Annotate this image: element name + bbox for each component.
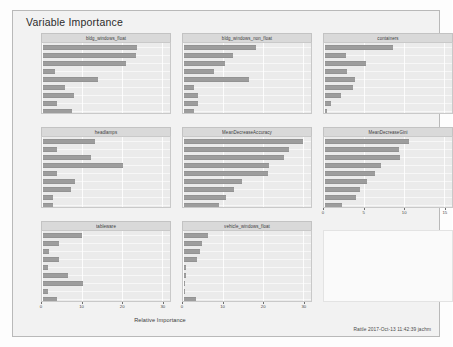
facet-panel-bldg_windows_non_float: bldg_windows_non_float: [182, 33, 312, 127]
facet-strip: tableware: [41, 221, 171, 230]
bar-Al: [43, 155, 91, 160]
bar-Si: [325, 101, 331, 106]
bar-K: [325, 93, 341, 98]
facet-panel-empty: [323, 221, 453, 315]
bar-Ca: [43, 265, 48, 270]
plot-area: [323, 136, 453, 208]
facet-strip-label: MeanDecreaseGini: [368, 129, 407, 134]
plot-area: MgRIAlBaCaNaKSiFe: [41, 42, 171, 114]
facet-row: headlampsMgRIAlBaCaNaKSiFeMeanDecreaseAc…: [21, 127, 433, 221]
bar-K: [184, 93, 198, 98]
bar-Al: [184, 61, 225, 66]
bar-RI: [43, 53, 136, 58]
bar-K: [43, 187, 71, 192]
bar-Si: [184, 101, 198, 106]
bar-Fe: [325, 203, 342, 208]
bar-Ba: [43, 163, 123, 168]
bar-Mg: [325, 45, 393, 50]
bar-Si: [325, 195, 356, 200]
bar-Ca: [325, 77, 355, 82]
x-axis: [182, 114, 312, 126]
x-tick-label: 15: [442, 211, 447, 215]
facet-strip-label: vehicle_windows_float: [224, 223, 270, 228]
facet-strip: vehicle_windows_float: [182, 221, 312, 230]
bar-Fe: [43, 297, 57, 302]
x-tick-label: 5: [362, 211, 364, 215]
facet-panel-headlamps: headlampsMgRIAlBaCaNaKSiFe: [41, 127, 171, 221]
bar-series: [183, 137, 311, 207]
facet-strip: MeanDecreaseGini: [323, 127, 453, 136]
facet-strip-placeholder: [323, 221, 453, 230]
bar-Al: [43, 249, 49, 254]
x-axis: [41, 114, 171, 126]
bar-RI: [325, 53, 346, 58]
page-title: Variable Importance: [26, 16, 123, 28]
bar-RI: [184, 53, 233, 58]
bar-series: [324, 137, 452, 207]
facet-panel-containers: containers: [323, 33, 453, 127]
bar-Ca: [184, 265, 186, 270]
facet-strip: MeanDecreaseAccuracy: [182, 127, 312, 136]
bar-Na: [43, 85, 65, 90]
bar-Na: [184, 179, 242, 184]
x-tick-label: 20: [120, 305, 125, 309]
facet-row: tablewareMgRIAlBaCaNaKSiFe0102030vehicle…: [21, 221, 433, 315]
bar-RI: [184, 147, 289, 152]
bar-Ca: [184, 171, 268, 176]
facet-panel-tableware: tablewareMgRIAlBaCaNaKSiFe0102030: [41, 221, 171, 315]
bar-Ca: [43, 171, 57, 176]
bar-K: [43, 281, 83, 286]
x-tick-label: 10: [402, 211, 407, 215]
x-axis: [323, 302, 453, 314]
bar-series: [42, 137, 170, 207]
facet-strip: headlamps: [41, 127, 171, 136]
bar-RI: [325, 147, 399, 152]
bar-series: [324, 43, 452, 113]
plot-area: [182, 42, 312, 114]
bar-Al: [43, 61, 126, 66]
bar-RI: [43, 147, 57, 152]
bar-Ca: [325, 171, 375, 176]
facet-panel-MeanDecreaseAccuracy: MeanDecreaseAccuracy: [182, 127, 312, 221]
bar-Ba: [184, 69, 214, 74]
facet-strip-label: bldg_windows_non_float: [222, 35, 272, 40]
facet-strip-label: tableware: [96, 223, 116, 228]
bar-Na: [184, 273, 186, 278]
facet-panel-bldg_windows_float: bldg_windows_floatMgRIAlBaCaNaKSiFe: [41, 33, 171, 127]
facet-panel-vehicle_windows_float: vehicle_windows_float0102030: [182, 221, 312, 315]
bar-K: [184, 187, 234, 192]
facet-panel-MeanDecreaseGini: MeanDecreaseGini051015: [323, 127, 453, 221]
variable-importance-plot-card: Variable Importance bldg_windows_floatMg…: [12, 10, 440, 337]
x-tick-label: 20: [261, 305, 266, 309]
bar-Na: [43, 273, 68, 278]
bar-Ba: [43, 69, 55, 74]
x-axis: [182, 208, 312, 220]
x-tick-label: 0: [181, 305, 183, 309]
bar-Mg: [184, 45, 256, 50]
x-axis: 0102030: [41, 302, 171, 314]
facet-strip: bldg_windows_float: [41, 33, 171, 42]
facet-strip-label: bldg_windows_float: [86, 35, 126, 40]
x-axis: 0102030: [182, 302, 312, 314]
bar-Fe: [43, 203, 53, 208]
facet-strip-label: MeanDecreaseAccuracy: [222, 129, 272, 134]
bar-Al: [325, 61, 366, 66]
bar-Fe: [184, 203, 219, 208]
x-tick-label: 0: [322, 211, 324, 215]
x-axis: 051015: [323, 208, 453, 220]
bar-series: [42, 43, 170, 113]
bar-Ba: [184, 257, 197, 262]
bar-Ba: [325, 163, 381, 168]
x-tick-label: 0: [40, 305, 42, 309]
bar-Ba: [184, 163, 269, 168]
bar-Si: [184, 195, 226, 200]
bar-RI: [43, 241, 59, 246]
bar-series: [42, 231, 170, 301]
x-tick-label: 10: [220, 305, 225, 309]
bar-Mg: [43, 139, 95, 144]
bar-Na: [184, 85, 194, 90]
bar-Ba: [325, 69, 347, 74]
bar-Mg: [184, 233, 208, 238]
bar-Ba: [43, 257, 59, 262]
